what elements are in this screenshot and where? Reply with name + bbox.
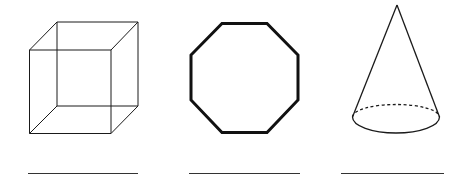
- shape-worksheet: [0, 0, 463, 185]
- cube-edge: [30, 106, 58, 134]
- cube-figure: [30, 22, 139, 134]
- octagon-figure: [191, 24, 298, 133]
- cone-base-front: [353, 117, 440, 133]
- cube-edge: [111, 106, 138, 134]
- cone-base-hidden: [353, 104, 440, 117]
- cube-edge: [111, 22, 138, 50]
- cube-edge: [30, 22, 58, 50]
- cone-figure: [353, 5, 440, 133]
- cone-left-side: [353, 5, 398, 117]
- cone-right-side: [397, 5, 440, 117]
